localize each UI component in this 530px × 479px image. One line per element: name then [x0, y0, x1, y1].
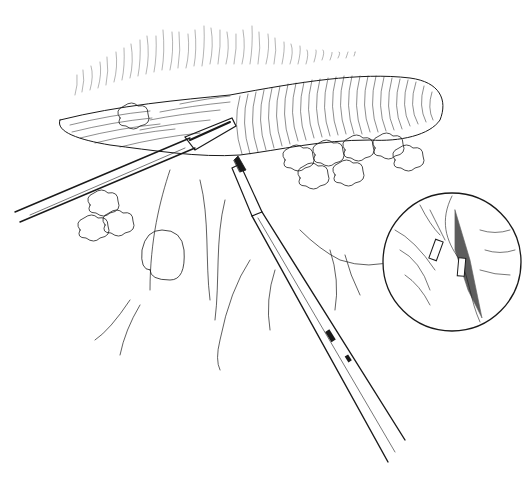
bowel-segment: [59, 76, 443, 156]
illustration-svg: [0, 0, 530, 479]
surgical-clip: [457, 258, 466, 277]
magnified-inset: [383, 193, 521, 331]
grasper-instrument: [15, 118, 236, 222]
fat-lobules: [78, 103, 424, 280]
medical-illustration: [0, 0, 530, 479]
clip-applier-instrument: [232, 156, 405, 462]
background-tissue-hatching: [75, 26, 355, 95]
